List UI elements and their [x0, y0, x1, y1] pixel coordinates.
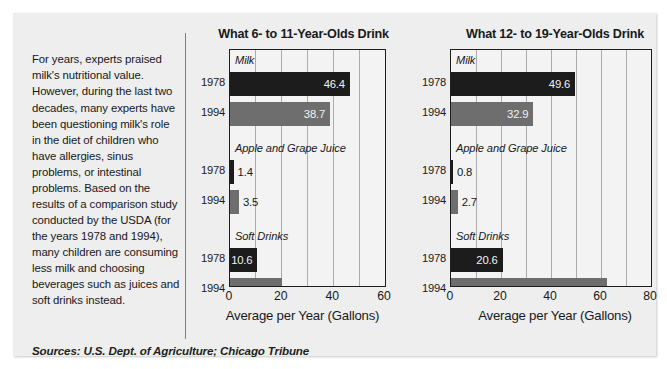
x-axis-title: Average per Year (Gallons) [441, 308, 667, 323]
bar-apple-and-grape-juice-1994 [451, 190, 458, 214]
gridline-minor [576, 50, 577, 286]
bar-apple-and-grape-juice-1978 [451, 160, 453, 184]
category-label: Soft Drinks [456, 230, 509, 242]
bar-value-label: 1.4 [238, 167, 253, 178]
bar-apple-and-grape-juice-1994 [230, 190, 239, 214]
category-label: Apple and Grape Juice [235, 142, 346, 154]
category-label: Soft Drinks [235, 230, 288, 242]
year-label-1994: 1994 [201, 282, 225, 294]
chart-children-6-to-11: What 6- to 11-Year-Olds Drink 1978199419… [205, 27, 400, 292]
gridline-minor [626, 50, 627, 286]
gridline [601, 50, 602, 286]
bar-value-label: 2.7 [462, 197, 477, 208]
x-tick-label: 60 [377, 289, 391, 303]
column-divider [185, 33, 186, 339]
bar-apple-and-grape-juice-1978 [230, 160, 234, 184]
bar-value-label: 0.8 [457, 167, 472, 178]
bar-value-label: 46.4 [324, 79, 345, 90]
x-tick-label: 0 [447, 289, 454, 303]
year-label-1978: 1978 [422, 164, 446, 176]
bar-value-label: 3.5 [243, 197, 258, 208]
category-label: Milk [456, 54, 475, 66]
year-label-1994: 1994 [422, 194, 446, 206]
article-body-text: For years, experts praised milk's nutrit… [32, 51, 180, 308]
x-axis-title: Average per Year (Gallons) [205, 308, 400, 323]
year-label-1994: 1994 [422, 106, 446, 118]
plot-area-right: Milk49.632.9Apple and Grape Juice0.82.7S… [450, 49, 652, 287]
category-label: Milk [235, 54, 254, 66]
sources-line: Sources: U.S. Dept. of Agriculture; Chic… [32, 344, 309, 357]
year-label-1994: 1994 [422, 282, 446, 294]
year-label-1994: 1994 [201, 106, 225, 118]
figure-panel: For years, experts praised milk's nutrit… [13, 13, 656, 356]
bar-value-label: 32.9 [507, 109, 528, 120]
bar-value-label: 38.7 [304, 109, 325, 120]
chart-title-left: What 6- to 11-Year-Olds Drink [207, 27, 400, 41]
bar-value-label: 20.0 [255, 285, 276, 288]
year-label-1978: 1978 [201, 252, 225, 264]
chart-teens-12-to-19: What 12- to 19-Year-Olds Drink 197819941… [441, 27, 667, 292]
year-label-1978: 1978 [201, 76, 225, 88]
bar-value-label: 10.6 [231, 255, 252, 266]
page-root: For years, experts praised milk's nutrit… [0, 0, 667, 369]
bar-value-label: 49.6 [549, 79, 570, 90]
year-label-1978: 1978 [201, 164, 225, 176]
x-tick-label: 40 [326, 289, 340, 303]
year-label-1978: 1978 [422, 76, 446, 88]
x-tick-label: 20 [493, 289, 507, 303]
year-label-1978: 1978 [422, 252, 446, 264]
x-tick-label: 40 [543, 289, 557, 303]
x-tick-label: 60 [593, 289, 607, 303]
plot-area-left: Milk46.438.7Apple and Grape Juice1.43.5S… [229, 49, 386, 287]
bar-value-label: 62.5 [581, 285, 602, 288]
year-label-1994: 1994 [201, 194, 225, 206]
x-tick-label: 0 [226, 289, 233, 303]
category-label: Apple and Grape Juice [456, 142, 567, 154]
x-tick-label: 20 [274, 289, 288, 303]
bar-value-label: 20.6 [476, 255, 497, 266]
gridline [385, 50, 386, 286]
chart-title-right: What 12- to 19-Year-Olds Drink [441, 27, 667, 41]
gridline-minor [359, 50, 360, 286]
x-tick-label: 80 [643, 289, 657, 303]
gridline [651, 50, 652, 286]
